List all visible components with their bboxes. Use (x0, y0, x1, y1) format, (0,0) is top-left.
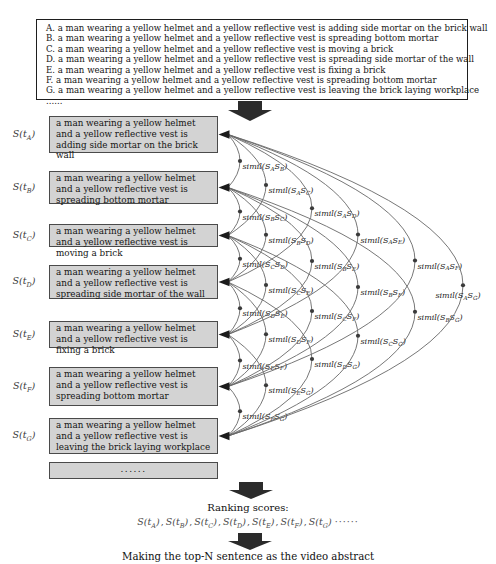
ranking-score-C: S(tC) (194, 516, 217, 527)
similarity-dot-AE (356, 232, 360, 236)
similarity-arc-AG (228, 135, 463, 437)
similarity-dot-BC (238, 209, 242, 213)
similarity-dot-DG (310, 357, 314, 361)
ranking-title: Ranking scores: (0, 502, 496, 513)
box-arrowhead-D (219, 278, 230, 287)
similarity-dot-CG (356, 334, 360, 338)
similarity-label-BC: simil(SBSC) (243, 213, 288, 223)
similarity-label-BG: simil(SBSG) (418, 313, 463, 323)
similarity-dot-CD (238, 257, 242, 261)
down-arrow-caption (228, 533, 272, 550)
similarity-dot-AF (413, 258, 417, 262)
box-arrowhead-B (219, 183, 230, 192)
similarity-label-AF: simil(SASF) (418, 262, 463, 272)
ranking-score-E: S(tE) (252, 516, 274, 527)
figure-canvas: A. a man wearing a yellow helmet and a y… (0, 0, 496, 564)
box-arrowhead-F (219, 382, 230, 391)
similarity-dot-FG (238, 409, 242, 413)
ranking-score-G: S(tG) (309, 516, 332, 527)
similarity-dot-AB (238, 159, 242, 163)
down-arrow-ranking (229, 482, 273, 499)
similarity-dot-DE (238, 306, 242, 310)
similarity-dot-BF (356, 285, 360, 289)
similarity-dot-EF (238, 358, 242, 362)
ranking-separator: , (247, 516, 250, 527)
similarity-dot-CF (310, 309, 314, 313)
similarity-dot-DF (264, 332, 268, 336)
similarity-dot-CE (264, 283, 268, 287)
ranking-separator: , (161, 516, 164, 527)
ranking-score-A: S(tA) (137, 516, 159, 527)
similarity-label-CG: simil(SCSG) (361, 337, 406, 347)
similarity-arc-DF (228, 282, 266, 387)
figure-caption: Making the top-N sentence as the video a… (0, 551, 496, 562)
box-arrowhead-C (219, 231, 230, 240)
similarity-label-CF: simil(SCSF) (315, 312, 360, 322)
similarity-dot-BG (413, 310, 417, 314)
ranking-separator: , (304, 516, 307, 527)
similarity-label-BD: simil(SBSD) (269, 236, 314, 246)
similarity-dot-BE (310, 259, 314, 263)
ranking-separator: , (189, 516, 192, 527)
box-arrowhead-G (219, 432, 230, 441)
similarity-dot-AC (264, 183, 268, 187)
ranking-separator: , (275, 516, 278, 527)
similarity-dot-EG (264, 383, 268, 387)
ranking-score-F: S(tF) (280, 516, 302, 527)
down-arrow-top (228, 101, 272, 121)
similarity-label-AC: simil(SASC) (269, 186, 314, 196)
ranking-separator: , (218, 516, 221, 527)
similarity-label-BF: simil(SBSF) (361, 288, 406, 298)
ranking-score-D: S(tD) (223, 516, 246, 527)
similarity-label-CE: simil(SCSE) (269, 286, 314, 296)
box-arrowhead-E (219, 330, 230, 339)
similarity-label-DG: simil(SDSG) (315, 360, 361, 370)
similarity-label-AE: simil(SASE) (361, 236, 406, 246)
similarity-label-EG: simil(SESG) (269, 386, 314, 396)
similarity-dot-BD (264, 233, 268, 237)
ranking-scores-list: S(tA),S(tB),S(tC),S(tD),S(tE),S(tF),S(tG… (0, 516, 496, 527)
ranking-ellipsis: ······ (335, 516, 359, 527)
box-arrowhead-A (219, 130, 230, 139)
similarity-dot-AD (310, 206, 314, 210)
similarity-label-EF: simil(SESF) (243, 362, 288, 372)
ranking-score-B: S(tB) (166, 516, 189, 527)
similarity-dot-AG (461, 283, 465, 287)
similarity-graph: simil(SASB)simil(SBSC)simil(SCSD)simil(S… (0, 0, 496, 564)
similarity-label-AG: simil(SASG) (435, 291, 480, 301)
